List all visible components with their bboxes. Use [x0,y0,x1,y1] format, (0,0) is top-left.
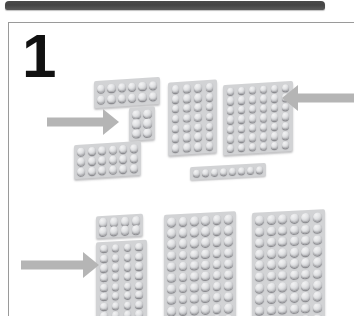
stud [190,272,198,281]
stud [135,272,142,280]
stud [99,227,107,236]
stud [260,133,267,141]
stud [224,226,232,235]
plate-1x8-thin [190,163,266,180]
stud [224,303,232,312]
stud [290,304,299,313]
stud [249,124,256,132]
stud [206,122,214,130]
stud [109,165,117,174]
stud [124,292,131,300]
stud [130,154,138,163]
stud [213,237,221,246]
app-chrome-bar[interactable] [5,1,325,10]
stud [249,114,256,122]
stud [100,302,107,310]
stud [278,259,287,268]
stud [179,228,187,237]
stud [135,281,142,289]
stud [290,236,299,245]
step-number: 1 [22,25,54,87]
stud [167,273,175,282]
stud [206,142,214,150]
stud [167,218,175,227]
arrow-shaft [297,94,354,103]
stud [98,166,106,175]
arrow-bottom-left-icon [21,252,99,278]
stud [100,245,107,253]
stud [183,84,191,92]
stud [213,282,221,291]
stud [172,124,180,132]
stud [301,213,310,222]
stud [100,264,107,272]
stud [313,258,322,267]
stud [138,93,146,102]
stud [190,305,198,314]
stud [278,305,287,314]
stud [301,247,310,256]
stud [183,133,191,141]
stud [143,109,151,118]
stud [224,237,232,246]
stud [227,97,234,105]
stud [238,106,245,114]
stud [271,104,278,112]
stud [220,168,227,175]
stud [255,272,264,281]
stud [267,215,276,224]
stud [267,271,276,280]
stud [138,81,146,90]
stud [118,83,126,92]
stud [179,261,187,270]
stud [255,238,264,247]
plate-6x2-top [94,77,160,108]
stud [112,292,119,300]
plate-4x2-above [96,214,143,238]
stud [121,217,129,226]
stud [255,283,264,292]
stud [194,83,202,91]
stud-grid [129,106,155,141]
arrow-shaft [47,118,104,127]
stud [135,262,142,270]
stud [301,303,310,312]
stud [201,216,209,225]
stud [149,81,157,90]
stud [201,293,209,302]
stud [201,238,209,247]
arrow-shaft [21,261,84,270]
stud [255,227,264,236]
stud [282,141,289,149]
stud [100,312,107,316]
stud [190,261,198,270]
stud [132,120,140,129]
stud [112,273,119,281]
stud [267,294,276,303]
stud [282,131,289,139]
stud [267,249,276,258]
stud [278,214,287,223]
stud [109,155,117,164]
stud [201,271,209,280]
stud [135,301,142,309]
stud [190,227,198,236]
stud [224,281,232,290]
stud [301,281,310,290]
stud [256,166,263,173]
stud [267,238,276,247]
stud [179,306,187,315]
stud [124,311,131,316]
stud [112,254,119,262]
stud [249,133,256,141]
stud [206,112,214,120]
stud-grid [96,240,147,316]
stud [290,281,299,290]
stud [206,132,214,140]
stud [271,113,278,121]
instruction-page-panel[interactable]: 1 [8,22,354,316]
stud [149,92,157,101]
stud [172,144,180,152]
stud [132,129,140,138]
arrow-head [282,85,298,111]
